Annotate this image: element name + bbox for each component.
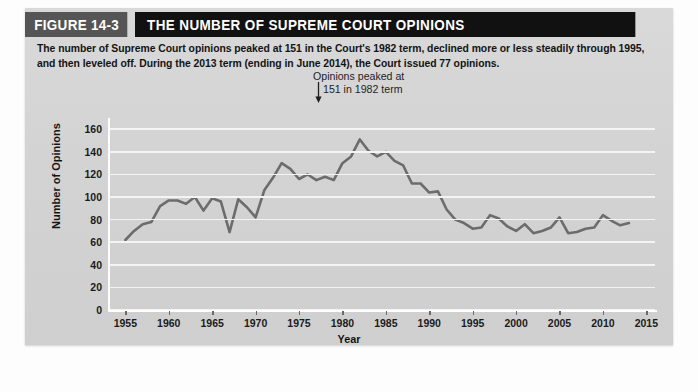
x-axis-tick-label: 2010: [591, 317, 614, 329]
y-axis-tick-label: 60: [90, 236, 102, 248]
peak-annotation-line1: Opinions peaked at: [313, 70, 404, 83]
y-axis-tick-label: 140: [84, 146, 102, 158]
figure-number-tag: FIGURE 14-3: [25, 12, 127, 37]
peak-annotation-line2: 151 in 1982 term: [313, 83, 404, 96]
x-axis-tick: [646, 311, 647, 315]
x-axis-line: [108, 310, 657, 312]
x-axis-tick: [169, 311, 170, 315]
y-axis-tick-label: 100: [84, 191, 102, 203]
x-axis-tick-label: 1955: [114, 317, 137, 329]
figure-caption: The number of Supreme Court opinions pea…: [37, 42, 661, 71]
x-axis-tick: [603, 311, 604, 315]
y-axis-line: [108, 118, 110, 311]
x-axis-tick-label: 1960: [157, 317, 180, 329]
x-axis-tick-label: 2005: [548, 317, 571, 329]
x-axis-tick-label: 2015: [635, 317, 658, 329]
figure-header: FIGURE 14-3 THE NUMBER OF SUPREME COURT …: [25, 12, 673, 37]
gridline: [108, 174, 655, 176]
y-axis-tick-label: 20: [90, 281, 102, 293]
y-axis-tick-label: 120: [84, 168, 102, 180]
opinions-line-chart: [108, 118, 655, 310]
x-axis-tick: [473, 311, 474, 315]
x-axis-tick: [299, 311, 300, 315]
peak-annotation: Opinions peaked at 151 in 1982 term: [313, 70, 404, 96]
y-axis-title: Number of Opinions: [50, 101, 62, 251]
y-axis-tick-labels: 160140120100806040200: [68, 118, 102, 310]
x-axis-tick-label: 1990: [418, 317, 441, 329]
x-axis-tick: [256, 311, 257, 315]
x-axis-tick-label: 1965: [201, 317, 224, 329]
chart-area: Number of Opinions 160140120100806040200…: [25, 74, 673, 345]
gridline: [108, 128, 655, 130]
gridline: [108, 287, 655, 289]
x-axis-tick-label: 1970: [244, 317, 267, 329]
x-axis-tick-label: 2000: [504, 317, 527, 329]
gridline: [108, 264, 655, 266]
y-axis-tick-label: 80: [90, 214, 102, 226]
x-axis-tick: [559, 311, 560, 315]
y-axis-tick-label: 40: [90, 259, 102, 271]
data-line-number-of-opinions: [125, 139, 629, 240]
plot-region: [108, 118, 655, 310]
gridline: [108, 196, 655, 198]
x-axis-tick: [516, 311, 517, 315]
gridline: [108, 241, 655, 243]
x-axis-tick: [212, 311, 213, 315]
x-axis-tick: [342, 311, 343, 315]
x-axis-tick-label: 1975: [287, 317, 310, 329]
down-arrow-icon: [314, 82, 323, 104]
x-axis-tick-label: 1985: [374, 317, 397, 329]
gridline: [108, 219, 655, 221]
page-root: FIGURE 14-3 THE NUMBER OF SUPREME COURT …: [0, 0, 698, 392]
gridline: [108, 151, 655, 153]
figure-title: THE NUMBER OF SUPREME COURT OPINIONS: [135, 12, 635, 37]
x-axis-title: Year: [25, 333, 673, 345]
x-axis-tick-label: 1980: [331, 317, 354, 329]
figure-panel: FIGURE 14-3 THE NUMBER OF SUPREME COURT …: [25, 8, 673, 345]
x-axis-tick: [386, 311, 387, 315]
x-axis-tick: [429, 311, 430, 315]
y-axis-tick-label: 0: [96, 304, 102, 316]
x-axis-tick-label: 1995: [461, 317, 484, 329]
y-axis-tick-label: 160: [84, 123, 102, 135]
x-axis-tick: [125, 311, 126, 315]
